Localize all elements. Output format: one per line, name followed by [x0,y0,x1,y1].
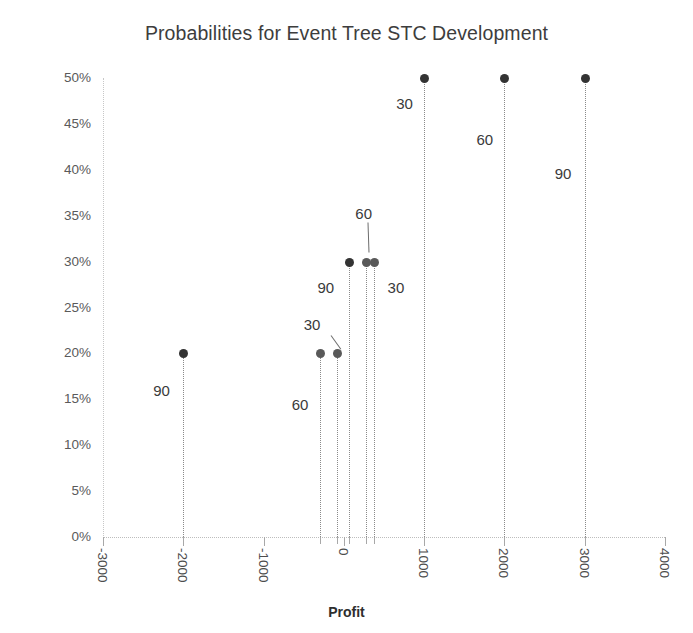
x-axis-minor-tick-mark [504,537,505,544]
x-axis-tick-label: 1000 [417,548,431,578]
data-point-marker[interactable] [420,74,429,83]
label-leader-line [368,222,370,252]
x-axis-tick-label: 2000 [497,548,511,578]
x-axis-minor-tick-mark [585,537,586,544]
x-axis-tick-mark [344,537,345,546]
x-axis-title: Profit [0,604,693,620]
stem-line [320,353,321,537]
x-axis-minor-tick-mark [366,537,367,544]
y-axis-tick-label: 0% [31,530,91,544]
data-point-marker[interactable] [179,349,188,358]
x-axis-minor-tick-mark [374,537,375,544]
chart-title: Probabilities for Event Tree STC Develop… [0,22,693,45]
y-axis-tick-label: 35% [31,209,91,223]
x-axis-tick-mark [665,537,666,546]
stem-line [374,262,375,537]
x-axis-tick-label: -2000 [176,548,190,583]
stem-line [585,78,586,537]
data-point-label: 60 [292,397,309,412]
x-axis-tick-label: 3000 [577,548,591,578]
x-axis-tick-label: 4000 [658,548,672,578]
data-point-marker[interactable] [500,74,509,83]
stem-line [349,262,350,537]
data-point-label: 30 [388,280,405,295]
label-leader-line [330,336,341,351]
x-axis-tick-label: -3000 [96,548,110,583]
data-point-label: 30 [396,96,413,111]
stem-line [337,353,338,537]
data-point-label: 30 [304,317,321,332]
x-axis-tick-mark [103,537,104,546]
y-axis-tick-label: 20% [31,346,91,360]
stem-line [424,78,425,537]
x-axis-line [103,537,665,538]
y-axis-tick-label: 40% [31,163,91,177]
data-point-label: 60 [355,206,372,221]
y-axis-tick-label: 25% [31,301,91,315]
y-axis-tick-label: 10% [31,438,91,452]
data-point-marker[interactable] [316,349,325,358]
x-axis-minor-tick-mark [424,537,425,544]
data-point-label: 90 [555,166,572,181]
x-axis-tick-label: 0 [336,548,350,556]
stem-line [183,353,184,537]
data-point-label: 90 [153,383,170,398]
x-axis-tick-mark [264,537,265,546]
y-axis-tick-label: 50% [31,71,91,85]
y-axis-tick-label: 15% [31,392,91,406]
x-axis-minor-tick-mark [320,537,321,544]
x-axis-tick-label: -1000 [256,548,270,583]
data-point-marker[interactable] [370,258,379,267]
x-axis-minor-tick-mark [337,537,338,544]
data-point-marker[interactable] [581,74,590,83]
data-point-marker[interactable] [345,258,354,267]
x-axis-minor-tick-mark [183,537,184,544]
y-axis-tick-label: 30% [31,255,91,269]
chart-container: Probabilities for Event Tree STC Develop… [0,0,693,633]
stem-line [366,262,367,537]
stem-line [504,78,505,537]
data-point-marker[interactable] [333,349,342,358]
y-axis-tick-label: 5% [31,484,91,498]
x-axis-minor-tick-mark [349,537,350,544]
y-axis-tick-label: 45% [31,117,91,131]
data-point-label: 60 [476,132,493,147]
y-axis-line [103,78,104,538]
data-point-label: 90 [317,280,334,295]
